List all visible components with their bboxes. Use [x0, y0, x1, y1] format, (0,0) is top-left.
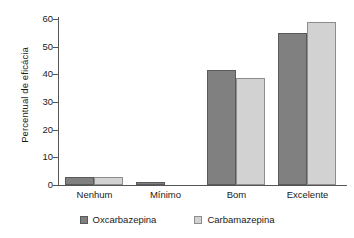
y-axis-tick-label: 60 — [29, 14, 53, 24]
y-axis-tick-label: 20 — [29, 125, 53, 135]
legend-swatch-icon — [80, 216, 88, 224]
x-axis-category-label: Nenhum — [59, 188, 130, 202]
y-axis-tick-labels: 0102030405060 — [25, 19, 53, 185]
x-axis-line — [57, 185, 347, 186]
y-axis-tick — [53, 185, 58, 186]
y-axis-tick-label: 0 — [29, 180, 53, 190]
bar[interactable] — [207, 70, 236, 185]
y-axis-tick — [53, 157, 58, 158]
bar[interactable] — [65, 177, 94, 185]
y-axis-tick — [53, 130, 58, 131]
legend-item[interactable]: Carbamazepina — [194, 215, 274, 225]
x-axis-category-label: Excelente — [272, 188, 343, 202]
y-axis-tick-label: 50 — [29, 42, 53, 52]
bar[interactable] — [136, 182, 165, 185]
y-axis-tick — [53, 19, 58, 20]
legend-label: Carbamazepina — [207, 215, 274, 225]
bar[interactable] — [278, 33, 307, 185]
bar[interactable] — [94, 177, 123, 185]
bar-group — [201, 19, 272, 185]
bar-group — [59, 19, 130, 185]
bar-group — [130, 19, 201, 185]
legend-label: Oxcarbazepina — [93, 215, 157, 225]
y-axis-tick — [53, 74, 58, 75]
x-axis-category-label: Bom — [201, 188, 272, 202]
y-axis-tick-label: 40 — [29, 69, 53, 79]
bar[interactable] — [236, 78, 265, 185]
x-axis-category-label: Mínimo — [130, 188, 201, 202]
chart-legend: OxcarbazepinaCarbamazepina — [0, 212, 354, 228]
y-axis-tick — [53, 47, 58, 48]
bar[interactable] — [307, 22, 336, 185]
bar-group — [271, 19, 342, 185]
y-axis-tick-label: 10 — [29, 152, 53, 162]
bar-chart: Percentual de eficácia 0102030405060 Nen… — [0, 0, 354, 238]
legend-item[interactable]: Oxcarbazepina — [80, 215, 157, 225]
x-axis-category-labels: NenhumMínimoBomExcelente — [59, 188, 343, 202]
bar-groups — [59, 19, 342, 185]
y-axis-tick-label: 30 — [29, 97, 53, 107]
legend-swatch-icon — [194, 216, 202, 224]
plot-area: 0102030405060 — [58, 19, 342, 185]
y-axis-tick — [53, 102, 58, 103]
